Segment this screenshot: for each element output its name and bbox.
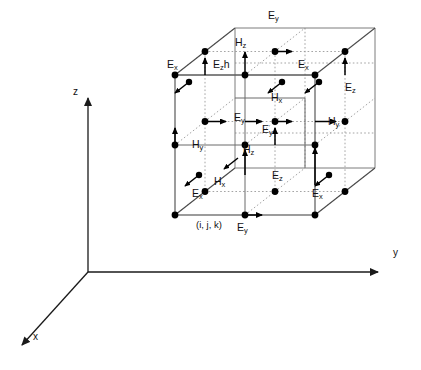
field-label-ez-h-top: Ezh [213,59,230,71]
field-sub: y [275,14,279,23]
field-sub: y [241,116,245,125]
field-base: H [243,143,251,155]
diagram-svg [0,0,421,370]
field-base: E [192,187,199,199]
x-axis-line [22,272,88,345]
field-label-ey-top: Ey [268,10,279,22]
field-sub: x [305,63,309,72]
field-sub: x [174,63,178,72]
axis-label-x: x [33,331,38,342]
field-sub: x [222,180,226,189]
axis-label-z: z [73,86,78,97]
cell-index-label: (i, j, k) [196,219,222,230]
field-sub: z [251,148,255,157]
field-label-hz-top: Hz [235,37,246,49]
field-sub: x [319,192,323,201]
field-label-ex-top-left: Ex [167,59,178,71]
field-sub: x [279,96,283,105]
field-sub: y [244,226,248,235]
field-base: H [192,138,200,150]
field-label-hy-left: Hy [192,139,203,151]
field-sub: y [200,143,204,152]
field-base: H [271,91,279,103]
field-label-ex-bottom-right: Ex [312,188,323,200]
field-base: E [167,58,174,70]
field-label-ey-center: Ey [262,124,273,136]
axis-label-y: y [393,247,398,258]
field-base: H [328,115,336,127]
field-base: E [312,187,319,199]
field-sub: z [243,41,247,50]
field-label-hz-lower: Hz [243,144,254,156]
field-sub: y [336,120,340,129]
field-base: H [235,36,243,48]
field-suffix: h [224,58,230,70]
field-label-hx-upper: Hx [271,92,282,104]
field-base: E [234,111,241,123]
field-label-hx-lower: Hx [214,176,225,188]
field-base: E [272,169,279,181]
figure-canvas: z y x (i, j, k) Ey Hz Ex Ezh Ex Ez Hx Ey… [0,0,421,370]
field-label-hy-right: Hy [328,116,339,128]
field-sub: z [352,86,356,95]
field-label-ey-bottom: Ey [237,222,248,234]
field-sub: x [199,192,203,201]
field-label-ex-top-right: Ex [298,59,309,71]
field-sub: z [279,174,283,183]
field-base: E [213,58,220,70]
vector-hx-lower [224,158,238,169]
field-base: E [237,221,244,233]
field-base: H [214,175,222,187]
field-label-ez-right: Ez [345,82,356,94]
field-base: E [262,123,269,135]
field-label-ex-bottom-left: Ex [192,188,203,200]
field-label-ey-mid-left: Ey [234,112,245,124]
field-base: E [345,81,352,93]
field-base: E [268,9,275,21]
field-label-ez-lower: Ez [272,170,283,182]
field-base: E [298,58,305,70]
lattice-nodes-secondary [186,79,332,178]
field-sub: y [269,128,273,137]
